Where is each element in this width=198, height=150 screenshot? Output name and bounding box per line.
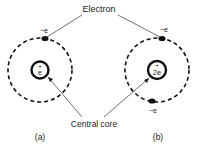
core-arrow-a bbox=[48, 77, 53, 82]
nucleus-a-charge: e bbox=[38, 69, 42, 76]
atom-b: + 2e −e −e bbox=[125, 26, 189, 114]
electron-b-top-charge: −e bbox=[160, 26, 168, 33]
electron-a bbox=[42, 36, 49, 41]
panel-a-label: (a) bbox=[35, 132, 46, 142]
atom-a: + e −e bbox=[8, 27, 72, 102]
electron-b-bottom-charge: −e bbox=[149, 107, 157, 114]
electron-a-charge: −e bbox=[40, 27, 48, 34]
electron-leader-b bbox=[118, 15, 160, 37]
electron-b-bottom bbox=[149, 98, 156, 103]
electron-b-top bbox=[159, 36, 166, 41]
electron-label: Electron bbox=[82, 4, 115, 14]
central-core-label: Central core bbox=[71, 119, 118, 129]
nucleus-b-charge: 2e bbox=[153, 68, 161, 77]
core-leader-a bbox=[48, 77, 82, 117]
core-arrow-b bbox=[144, 78, 149, 83]
electron-leader-a bbox=[47, 15, 82, 37]
panel-b-label: (b) bbox=[153, 132, 164, 142]
atom-diagram: Electron + e −e + 2e −e −e Central core … bbox=[0, 0, 198, 150]
